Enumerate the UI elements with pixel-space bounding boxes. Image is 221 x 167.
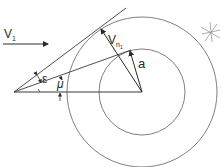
asterisk-icon bbox=[201, 22, 220, 42]
v1-label-main: V bbox=[4, 27, 12, 41]
inner-tangent-line bbox=[14, 50, 131, 92]
vn1-label-main: V bbox=[108, 33, 116, 47]
a-label: a bbox=[138, 57, 145, 70]
epsilon-label: ε bbox=[42, 73, 47, 85]
v1-label-sub: 1 bbox=[12, 35, 16, 42]
mu-label: μ bbox=[57, 78, 64, 90]
vn1-label: Vn1 bbox=[108, 34, 123, 51]
diagram-canvas bbox=[0, 0, 221, 167]
epsilon-arc bbox=[37, 75, 41, 83]
vn1-label-subsub: 1 bbox=[120, 45, 123, 51]
v1-label: V1 bbox=[4, 28, 16, 42]
